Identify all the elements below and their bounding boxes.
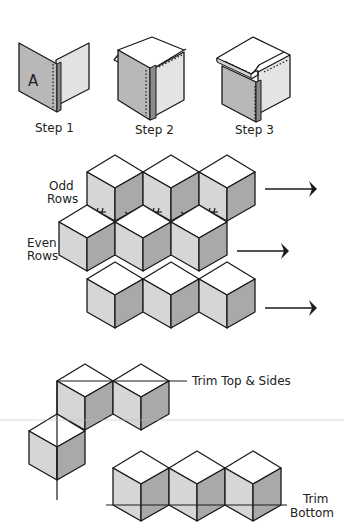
trim-bottom-label-line2: Bottom xyxy=(290,506,334,520)
cube xyxy=(143,262,199,328)
even-rows-label-line2: Rows xyxy=(27,249,58,263)
step-2-label: Step 2 xyxy=(135,123,174,137)
odd-row-2-cubes xyxy=(87,262,255,328)
even-rows-label-line1: Even xyxy=(27,236,57,250)
odd-rows-label-line2: Rows xyxy=(47,192,78,206)
arrow-right-icon xyxy=(265,300,317,316)
quilt-assembly-diagram: A Step 1 Step 2 Step 3 Odd Rows Even Row… xyxy=(0,0,344,525)
arrow-right-icon xyxy=(237,243,289,259)
step-3-label: Step 3 xyxy=(235,123,274,137)
cube xyxy=(199,262,255,328)
step-3-figure xyxy=(217,37,290,122)
cube xyxy=(113,451,169,521)
odd-rows-label-line1: Odd xyxy=(49,179,74,193)
even-row-cubes xyxy=(59,205,227,271)
cube xyxy=(169,451,225,521)
trim-bottom-figure xyxy=(106,451,287,521)
step-2-figure xyxy=(114,37,186,120)
trim-top-sides-label: Trim Top & Sides xyxy=(191,374,291,388)
step-1-figure: A xyxy=(19,43,89,112)
cube xyxy=(225,451,281,521)
odd-row-cubes xyxy=(87,155,255,221)
panel-letter-a: A xyxy=(28,72,39,90)
trim-bottom-label-line1: Trim xyxy=(302,492,329,506)
cube xyxy=(87,262,143,328)
arrow-right-icon xyxy=(265,181,317,197)
step-1-label: Step 1 xyxy=(35,121,74,135)
